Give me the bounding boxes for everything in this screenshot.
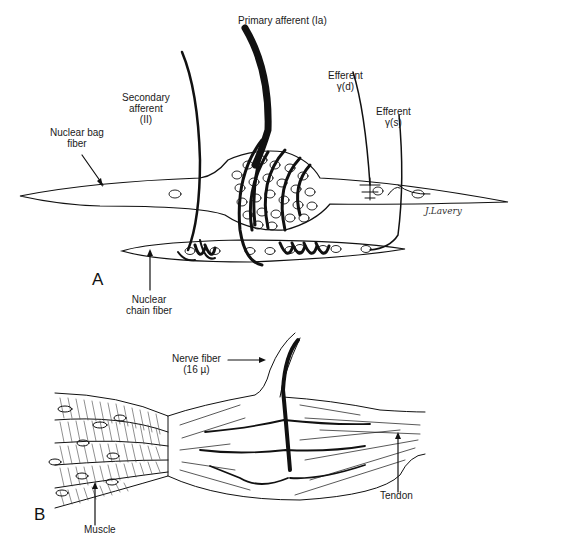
label-nuclear-bag-fiber: Nuclear bag fiber (50, 127, 104, 149)
label-nerve-fiber: Nerve fiber (16 µ) (172, 353, 221, 375)
nuclei (169, 156, 424, 255)
label-tendon: Tendon (380, 490, 413, 501)
panel-letter-a: A (92, 270, 103, 290)
label-efferent-gamma-s: Efferent γ(s) (376, 106, 411, 128)
nuclear-chain-fiber (122, 240, 405, 262)
secondary-afferent-nerve (182, 52, 200, 250)
panel-letter-b: B (34, 505, 45, 525)
label-efferent-gamma-d: Efferent γ(d) (328, 70, 363, 92)
label-nuclear-chain-fiber: Nuclear chain fiber (126, 294, 172, 316)
muscle-fibers (49, 393, 168, 508)
figure-drawing (0, 0, 565, 546)
annulospiral-coils (195, 150, 329, 254)
label-primary-afferent: Primary afferent (Ia) (238, 15, 327, 26)
nuclear-bag-fiber (20, 151, 508, 230)
artist-signature: J.Lavery (425, 206, 462, 216)
label-muscle: Muscle (84, 524, 116, 535)
label-secondary-afferent: Secondary afferent (II) (122, 92, 170, 125)
